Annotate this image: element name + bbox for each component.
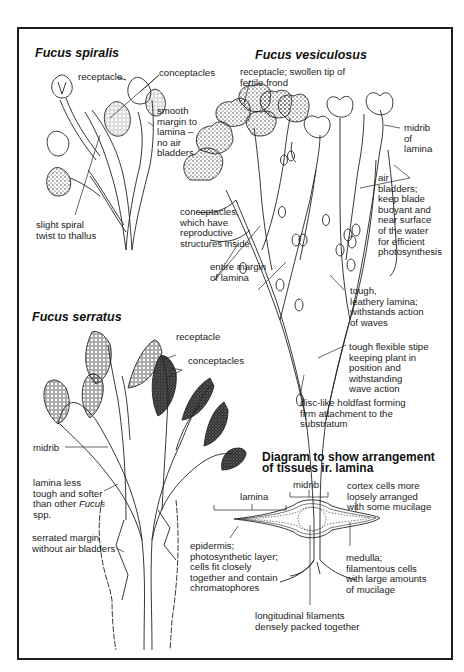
section-label-lamina: lamina bbox=[240, 492, 268, 503]
vesiculosus-label-receptacle: receptacle; swollen tip of fertile frond bbox=[240, 67, 345, 88]
vesiculosus-label-stipe: tough flexible stipe keeping plant in po… bbox=[349, 342, 428, 395]
vesiculosus-label-holdfast: disc-like holdfast forming firm attachme… bbox=[300, 398, 406, 430]
spiralis-label-spiral-twist: slight spiral twist to thallus bbox=[36, 220, 96, 241]
vesiculosus-label-tough-lamina: tough, leathery lamina; withstands actio… bbox=[350, 286, 424, 328]
serratus-label-midrib: midrib bbox=[33, 443, 59, 454]
spiralis-label-smooth-margin: smooth margin to lamina – no air bladder… bbox=[157, 106, 197, 159]
serratus-label-serrated-margin: serrated margin without air bladders bbox=[32, 533, 115, 554]
section-label-cortex: cortex cells more loosely arranged with … bbox=[347, 481, 431, 513]
section-label-filaments: longitudinal filaments densely packed to… bbox=[255, 611, 360, 632]
section-label-midrib: midrib bbox=[293, 480, 319, 491]
vesiculosus-label-midrib: midrib of lamina bbox=[404, 123, 432, 155]
spiralis-label-receptacle: receptacle bbox=[78, 72, 122, 83]
fucus-serratus-title: Fucus serratus bbox=[32, 310, 122, 324]
serratus-label-conceptacles: conceptacles bbox=[188, 356, 244, 367]
vesiculosus-label-entire-margin: entire margin of lamina bbox=[210, 262, 266, 283]
serratus-label-lamina-less-tough: lamina less tough and softer than other … bbox=[33, 478, 105, 520]
vesiculosus-label-conceptacles: conceptacles, which have reproductive st… bbox=[180, 207, 250, 249]
fucus-vesiculosus-title: Fucus vesiculosus bbox=[255, 48, 367, 62]
section-label-medulla: medulla; filamentous cells with large am… bbox=[346, 553, 427, 595]
lamina-section-title: Diagram to show arrangement of tissues i… bbox=[262, 452, 435, 474]
spiralis-label-conceptacles: conceptacles bbox=[159, 68, 215, 79]
vesiculosus-label-air-bladders: air bladders; keep blade buoyant and nea… bbox=[378, 173, 442, 258]
fucus-spiralis-title: Fucus spiralis bbox=[35, 46, 119, 60]
serratus-label-receptacle: receptacle bbox=[176, 332, 220, 343]
section-label-epidermis: epidermis; photosynthetic layer; cells f… bbox=[190, 541, 278, 594]
